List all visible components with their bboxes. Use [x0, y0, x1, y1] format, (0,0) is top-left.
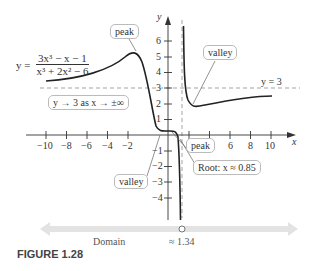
domain-label: Domain [93, 236, 125, 247]
formula-denominator: x³ + 2x² − 6 [34, 65, 90, 77]
callout-peak-left: peak [110, 24, 139, 39]
y-tick-label: 3 [156, 82, 161, 93]
x-tick-label: −6 [81, 140, 92, 151]
x-tick-label: −4 [102, 140, 113, 151]
callout-leaders [129, 39, 215, 176]
domain-left-arrow-icon [40, 222, 50, 236]
y-tick-label: 4 [156, 66, 161, 77]
y-axis-label: y [157, 11, 161, 22]
y-tick-label: −1 [152, 145, 163, 156]
x-tick-label: −10 [37, 140, 53, 151]
y-tick-label: 1 [156, 113, 161, 124]
x-tick-label: 10 [265, 140, 275, 151]
callout-valley-right: valley [203, 45, 237, 60]
domain-right-arrow-icon [288, 222, 298, 236]
y-tick-label: 2 [156, 98, 161, 109]
y-tick-label: −4 [152, 192, 163, 203]
excluded-value-label: ≈ 1.34 [169, 236, 195, 247]
callout-valley-small: valley [114, 174, 148, 189]
callout-peak-small: peak [186, 138, 215, 153]
x-tick-label: 8 [248, 140, 253, 151]
x-axis-label: x [292, 136, 296, 147]
x-tick-label: 6 [228, 140, 233, 151]
y-tick-label: 5 [156, 51, 161, 62]
formula-numerator: 3x³ − x − 1 [36, 52, 89, 65]
y-tick-label: 6 [156, 35, 161, 46]
curve-right-branch [184, 26, 273, 106]
figure-caption: FIGURE 1.28 [17, 248, 83, 260]
y-axis-arrow-icon [165, 16, 171, 25]
x-tick-label: −2 [122, 140, 133, 151]
domain-bar [48, 226, 288, 232]
callout-root: Root: x ≈ 0.85 [193, 160, 261, 175]
asymptote-label: y = 3 [261, 76, 282, 87]
y-tick-label: −2 [152, 160, 163, 171]
y-tick-label: −3 [152, 176, 163, 187]
formula-fraction: 3x³ − x − 1 x³ + 2x² − 6 [34, 52, 90, 77]
figure: y = 3x³ − x − 1 x³ + 2x² − 6 y x −10 −8 … [0, 0, 311, 271]
x-tick-label: −8 [61, 140, 72, 151]
callout-limit: y → 3 as x → ±∞ [48, 95, 129, 110]
formula-lhs: y = [16, 59, 30, 71]
excluded-point-icon [179, 226, 185, 232]
function-formula: y = 3x³ − x − 1 x³ + 2x² − 6 [16, 52, 90, 77]
